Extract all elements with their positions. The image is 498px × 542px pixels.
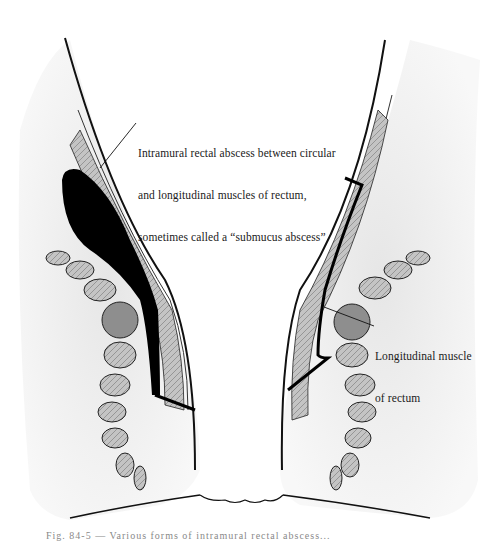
- rectum-illustration: [0, 0, 498, 542]
- abscess-leader-line: [100, 123, 136, 168]
- abscess-label: Intramural rectal abscess between circul…: [138, 118, 336, 258]
- abscess-label-line-1: Intramural rectal abscess between circul…: [138, 146, 336, 160]
- abscess-label-line-2: and longitudinal muscles of rectum,: [138, 188, 336, 202]
- muscle-label: Longitudinal muscle of rectum: [375, 321, 472, 419]
- left-tissue: [19, 40, 200, 520]
- muscle-label-line-1: Longitudinal muscle: [375, 349, 472, 363]
- anal-verge: [200, 495, 283, 503]
- muscle-label-line-2: of rectum: [375, 391, 472, 405]
- figure-caption: Fig. 84-5 — Various forms of intramural …: [46, 530, 331, 541]
- abscess-label-line-3: sometimes called a “submucus abscess”: [138, 230, 336, 244]
